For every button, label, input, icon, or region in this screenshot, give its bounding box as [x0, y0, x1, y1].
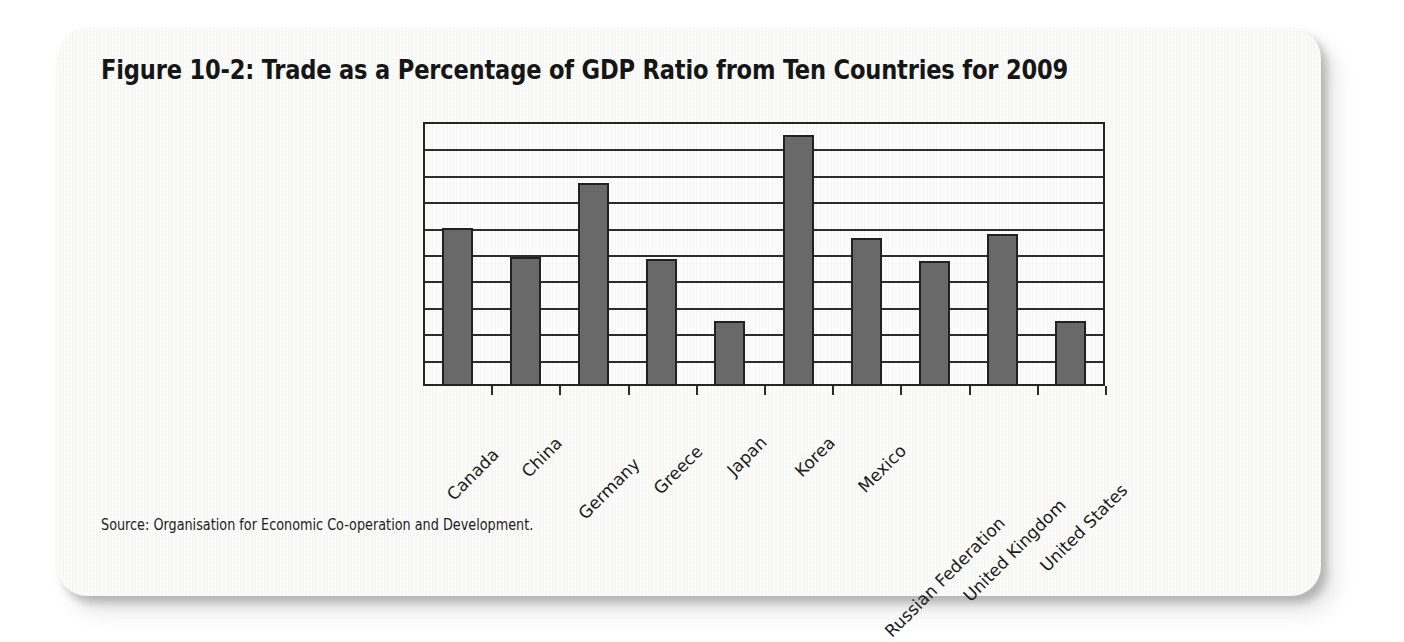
x-axis-tick-label: Korea	[826, 400, 874, 448]
x-axis-tick-label: Mexico	[898, 400, 954, 456]
bar	[442, 228, 473, 386]
bar	[919, 261, 950, 386]
x-axis-tick-mark	[491, 386, 493, 395]
x-axis-tick-mark	[969, 386, 971, 395]
x-axis-tick-mark	[696, 386, 698, 395]
x-axis-tick-mark	[628, 386, 630, 395]
bar-chart: 0102030405060708090100 CanadaChinaGerman…	[366, 122, 1108, 422]
bar	[1055, 321, 1086, 386]
bar	[646, 259, 677, 386]
bar	[578, 183, 609, 386]
x-axis-tick-label: Japan	[758, 400, 806, 448]
source-note: Source: Organisation for Economic Co-ope…	[101, 516, 533, 534]
bars-group	[423, 122, 1105, 386]
x-axis-tick-mark	[1105, 386, 1107, 395]
bar	[510, 257, 541, 386]
x-axis-ticks	[423, 386, 1105, 396]
figure-card: Figure 10-2: Trade as a Percentage of GD…	[57, 28, 1321, 596]
page-title: Figure 10-2: Trade as a Percentage of GD…	[101, 54, 1171, 85]
bar	[987, 234, 1018, 386]
x-axis-tick-label: China	[554, 400, 602, 448]
x-axis-tick-mark	[1037, 386, 1039, 395]
bar	[783, 135, 814, 386]
x-axis-tick-mark	[832, 386, 834, 395]
page-root: Figure 10-2: Trade as a Percentage of GD…	[0, 0, 1404, 642]
x-axis-tick-mark	[900, 386, 902, 395]
x-axis-tick-mark	[559, 386, 561, 395]
bar	[714, 321, 745, 386]
x-axis-tick-mark	[764, 386, 766, 395]
bar	[851, 238, 882, 386]
